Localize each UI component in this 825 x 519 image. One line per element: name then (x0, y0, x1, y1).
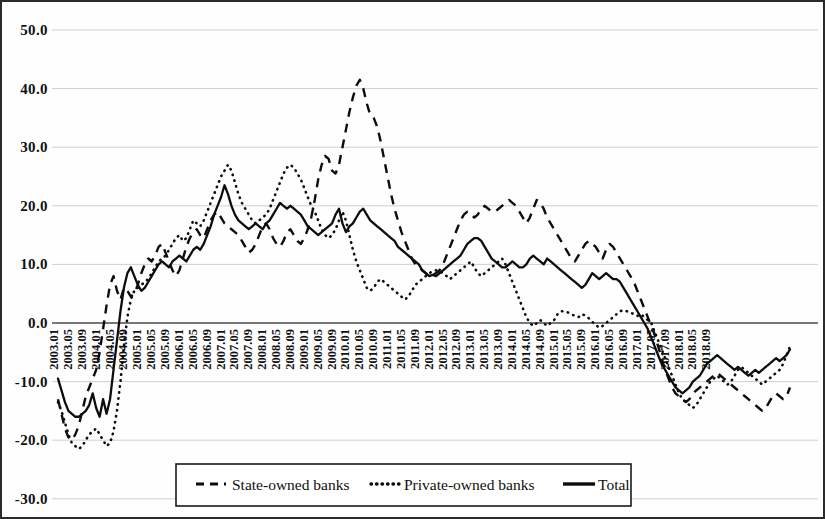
series-line-private-owned-banks (58, 165, 790, 449)
x-axis-tick-label: 2011.01 (380, 329, 394, 369)
y-axis-tick-labels: 50.040.030.020.010.00.0-10.0-20.0-30.0 (15, 22, 48, 507)
x-axis-tick-label: 2014.05 (519, 329, 533, 370)
x-axis-tick-label: 2009.09 (325, 329, 339, 370)
x-axis-tick-label: 2012.05 (436, 329, 450, 370)
x-axis-tick-label: 2006.01 (172, 329, 186, 370)
x-axis-tick-label: 2003.05 (61, 329, 75, 370)
x-axis-tick-label: 2012.01 (422, 329, 436, 370)
y-axis-tick-label: 10.0 (20, 256, 48, 272)
x-axis-tick-label: 2004.01 (89, 329, 103, 370)
x-axis-tick-label: 2018.05 (685, 329, 699, 370)
x-axis-tick-label: 2017.01 (630, 329, 644, 370)
x-axis-tick-label: 2007.09 (241, 329, 255, 370)
chart-root: 50.040.030.020.010.00.0-10.0-20.0-30.0 2… (0, 0, 825, 519)
y-axis-tick-label: 50.0 (20, 22, 48, 38)
x-axis-tick-label: 2011.05 (394, 329, 408, 369)
x-axis-tick-label: 2012.09 (449, 329, 463, 370)
x-axis-tick-label: 2003.09 (75, 329, 89, 370)
x-axis-tick-label: 2016.09 (616, 329, 630, 370)
x-axis-tick-label: 2013.09 (491, 329, 505, 370)
line-chart: 50.040.030.020.010.00.0-10.0-20.0-30.0 2… (0, 0, 825, 519)
x-axis-tick-label: 2013.05 (477, 329, 491, 370)
x-axis-tick-label: 2014.09 (533, 329, 547, 370)
y-axis-tick-label: -20.0 (15, 432, 48, 448)
x-axis-tick-label: 2009.01 (297, 329, 311, 370)
x-axis-tick-label: 2005.05 (144, 329, 158, 370)
x-axis-tick-label: 2010.09 (366, 329, 380, 370)
x-axis-tick-label: 2010.05 (352, 329, 366, 370)
x-axis-tick-label: 2011.09 (408, 329, 422, 369)
x-axis-tick-label: 2006.09 (200, 329, 214, 370)
x-axis-tick-label: 2013.01 (463, 329, 477, 370)
x-axis-tick-label: 2008.09 (283, 329, 297, 370)
x-axis-tick-labels: 2003.012003.052003.092004.012004.052004.… (47, 329, 713, 370)
x-axis-tick-label: 2005.09 (158, 329, 172, 370)
x-axis-tick-label: 2009.05 (311, 329, 325, 370)
legend-label: State-owned banks (232, 476, 350, 493)
x-axis-tick-label: 2015.05 (560, 329, 574, 370)
x-axis-tick-label: 2018.01 (672, 329, 686, 370)
x-axis-tick-label: 2008.01 (255, 329, 269, 370)
y-axis-tick-label: 40.0 (20, 81, 48, 97)
y-axis-tick-label: 20.0 (20, 198, 48, 214)
chart-legend: State-owned banksPrivate-owned banksTota… (176, 464, 631, 506)
x-axis-tick-label: 2008.05 (269, 329, 283, 370)
x-axis-tick-label: 2003.01 (47, 329, 61, 370)
x-axis-tick-label: 2014.01 (505, 329, 519, 370)
legend-label: Private-owned banks (404, 476, 534, 493)
x-axis-tick-label: 2010.01 (338, 329, 352, 370)
series-line-state-owned-banks (58, 80, 790, 440)
x-axis-tick-label: 2007.05 (227, 329, 241, 370)
x-axis-tick-label: 2015.01 (547, 329, 561, 370)
x-axis-tick-label: 2005.01 (130, 329, 144, 370)
x-axis-tick-label: 2006.05 (186, 329, 200, 370)
x-axis-tick-label: 2015.09 (574, 329, 588, 370)
y-axis-tick-label: 30.0 (20, 139, 48, 155)
legend-label: Total (598, 476, 630, 493)
y-axis-tick-label: 0.0 (28, 315, 48, 331)
y-axis-tick-label: -10.0 (15, 374, 48, 390)
x-axis-tick-label: 2016.01 (588, 329, 602, 370)
x-axis-tick-label: 2016.05 (602, 329, 616, 370)
y-axis-tick-label: -30.0 (15, 491, 48, 507)
x-axis-tick-label: 2007.01 (214, 329, 228, 370)
